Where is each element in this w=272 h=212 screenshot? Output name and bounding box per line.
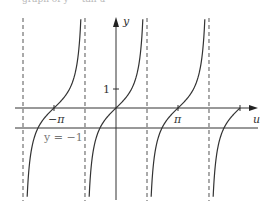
tangent-branch	[213, 108, 240, 197]
hline-label: y = −1	[43, 131, 83, 144]
y-tick-label-one: 1	[103, 83, 110, 96]
tangent-graph: y u 1 −π π y = −1	[0, 0, 272, 212]
x-tick-label-neg-pi: −π	[48, 113, 65, 126]
u-axis-arrow-icon	[249, 105, 258, 111]
u-axis-label: u	[253, 113, 260, 126]
x-tick-label-pi: π	[173, 113, 182, 126]
y-axis-arrow-icon	[113, 17, 119, 27]
y-axis-label: y	[122, 15, 130, 28]
